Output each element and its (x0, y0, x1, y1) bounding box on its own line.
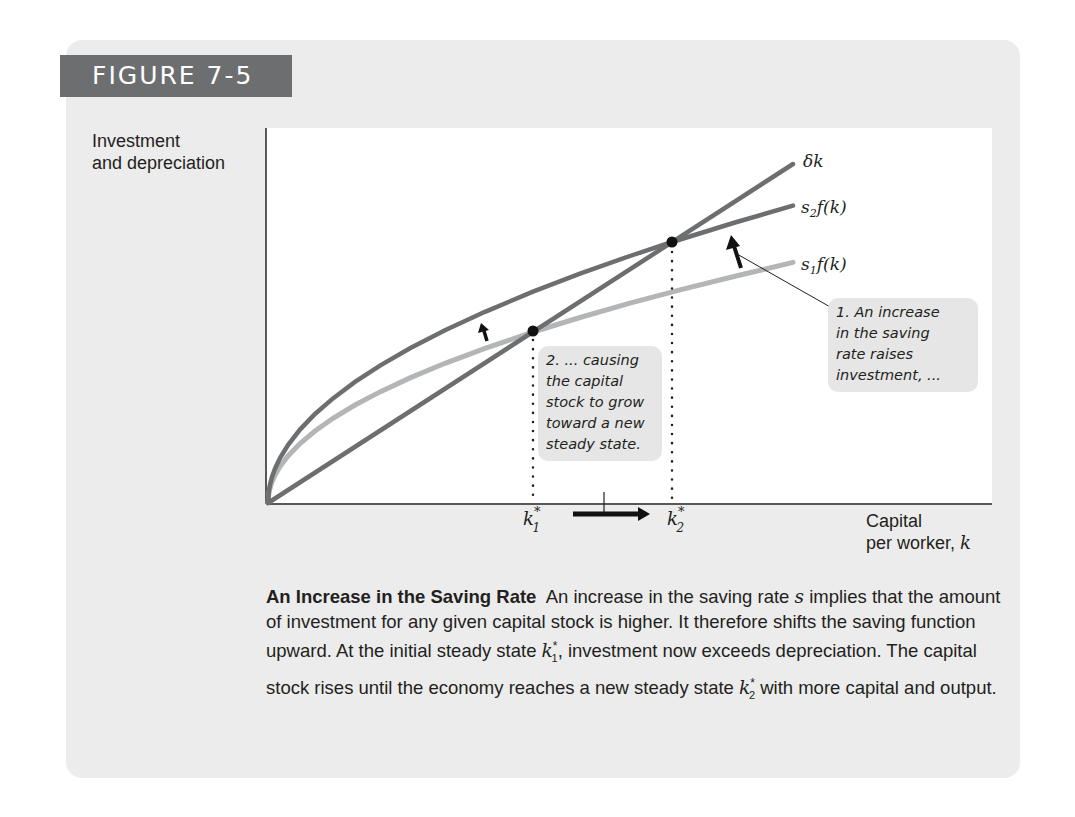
label-s1-s: s (801, 254, 810, 274)
label-s2fk: s2f(k) (801, 197, 847, 220)
tick-k2-sub: 2 (676, 521, 684, 535)
steady-state-2-point (667, 237, 678, 248)
annotation-2-line: 2. ... causing (546, 350, 656, 371)
tick-k2-star: k*2 (667, 508, 692, 529)
label-s1-sub: 1 (810, 264, 817, 277)
label-depreciation: δk (803, 151, 824, 171)
annotation-1: 1. An increase in the saving rate raises… (828, 298, 978, 392)
figure-caption: An Increase in the Saving Rate An increa… (266, 584, 1006, 708)
annotation-2: 2. ... causing the capital stock to grow… (538, 346, 662, 461)
annotation-2-line: toward a new (546, 413, 656, 434)
label-s1fk: s1f(k) (801, 254, 847, 277)
annotation-1-line: 1. An increase (836, 302, 972, 323)
shift-up-arrow-small (478, 323, 489, 341)
x-axis-label-var: k (960, 532, 971, 553)
x-axis-label: Capital per worker, k (866, 510, 971, 554)
s1fk-curve (268, 262, 793, 503)
capital-growth-arrow (573, 507, 650, 521)
annotation-2-line: stock to grow (546, 392, 656, 413)
label-s2-sub: 2 (810, 207, 817, 220)
caption-title: An Increase in the Saving Rate (266, 586, 536, 607)
label-s1-fk: f(k) (817, 254, 847, 274)
annotation-1-line: in the saving (836, 323, 972, 344)
shift-up-arrow-large (726, 235, 741, 268)
caption-text: with more capital and output. (755, 677, 997, 698)
tick-k2-sup: * (678, 504, 685, 519)
tick-k1-sup: * (534, 504, 541, 519)
caption-var-s: s (795, 586, 805, 607)
steady-state-1-point (528, 326, 539, 337)
label-s2-s: s (801, 197, 810, 217)
tick-k1-sub: 1 (532, 521, 540, 535)
annotation-2-line: the capital (546, 371, 656, 392)
annotation-1-line: rate raises (836, 344, 972, 365)
x-axis-label-line1: Capital (866, 510, 971, 532)
caption-text: An increase in the saving rate (536, 586, 794, 607)
x-axis-label-text: per worker, (866, 533, 960, 553)
annotation-2-line: steady state. (546, 434, 656, 455)
annotation-1-line: investment, ... (836, 365, 972, 386)
tick-k1-star: k*1 (523, 508, 548, 529)
s2fk-curve (268, 206, 793, 503)
x-axis-label-line2: per worker, k (866, 532, 971, 554)
label-s2-fk: f(k) (817, 197, 847, 217)
